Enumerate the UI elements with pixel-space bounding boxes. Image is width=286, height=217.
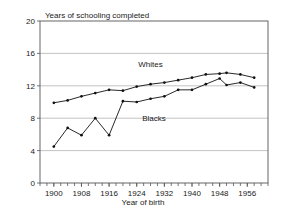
y-tick-label: 0: [31, 179, 36, 188]
data-point-blacks: [122, 100, 125, 103]
data-point-blacks: [204, 83, 207, 86]
series-line-blacks: [54, 79, 254, 147]
line-chart-plot: 048121620 190019081916192419321940194819…: [0, 0, 286, 217]
data-point-whites: [225, 71, 228, 74]
series-label-whites: Whites: [138, 60, 162, 69]
data-point-whites: [253, 76, 256, 79]
data-point-blacks: [135, 101, 138, 104]
y-tick-label: 20: [26, 17, 35, 26]
data-point-blacks: [94, 117, 97, 120]
data-point-blacks: [163, 95, 166, 98]
data-point-blacks: [191, 89, 194, 92]
data-point-whites: [218, 72, 221, 75]
data-point-whites: [135, 85, 138, 88]
x-tick-label: 1924: [128, 189, 146, 198]
data-point-whites: [52, 101, 55, 104]
y-tick-label: 12: [26, 82, 35, 91]
data-point-whites: [122, 89, 125, 92]
data-point-blacks: [225, 84, 228, 87]
x-axis-ticks-group: 19001908191619241932194019481956: [40, 183, 268, 198]
y-tick-label: 8: [31, 114, 36, 123]
x-tick-label: 1916: [100, 189, 118, 198]
data-point-blacks: [149, 97, 152, 100]
data-point-whites: [108, 89, 111, 92]
series-annotations-group: WhitesBlacks: [138, 60, 165, 123]
data-point-blacks: [239, 81, 242, 84]
x-tick-label: 1908: [73, 189, 91, 198]
series-label-blacks: Blacks: [142, 114, 166, 123]
data-point-blacks: [108, 134, 111, 137]
data-point-blacks: [177, 89, 180, 92]
data-point-blacks: [52, 145, 55, 148]
data-point-blacks: [66, 127, 69, 130]
data-point-whites: [191, 76, 194, 79]
data-point-whites: [149, 83, 152, 86]
data-point-whites: [177, 79, 180, 82]
x-tick-label: 1940: [183, 189, 201, 198]
chart-figure: Years of schooling completed 048121620 1…: [0, 0, 286, 217]
data-point-blacks: [218, 77, 221, 80]
x-tick-label: 1956: [238, 189, 256, 198]
data-series-group: [52, 71, 255, 147]
y-axis-ticks-group: 048121620: [26, 17, 40, 188]
data-point-blacks: [253, 86, 256, 89]
x-tick-label: 1900: [45, 189, 63, 198]
data-point-whites: [80, 95, 83, 98]
axis-frame: [40, 21, 268, 183]
y-tick-label: 16: [26, 49, 35, 58]
y-tick-label: 4: [31, 147, 36, 156]
data-point-whites: [94, 92, 97, 95]
x-axis-label: Year of birth: [0, 198, 286, 207]
x-tick-label: 1948: [211, 189, 229, 198]
data-point-whites: [66, 99, 69, 102]
data-point-whites: [239, 73, 242, 76]
data-point-whites: [163, 81, 166, 84]
data-point-whites: [204, 73, 207, 76]
axis-frame-group: [40, 21, 268, 183]
x-tick-label: 1932: [155, 189, 173, 198]
data-point-blacks: [80, 134, 83, 137]
